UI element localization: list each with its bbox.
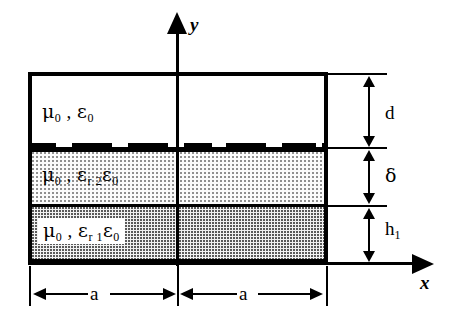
x-axis-label: x [420, 272, 430, 294]
label-separator-middle: , [61, 164, 77, 185]
dimension-arrow-a-left-end [163, 288, 176, 300]
dimension-label-h1-subscript: 1 [395, 228, 401, 242]
epsilon-zero-symbol-bottom: ε [103, 219, 113, 241]
dimension-label-h1-text: h [385, 218, 395, 239]
epsilon-zero-subscript-middle: 0 [112, 174, 119, 188]
mu-subscript-top: 0 [55, 111, 62, 125]
dimension-label-h1: h1 [385, 218, 401, 240]
x-axis-arrowhead-icon [412, 254, 434, 274]
grating-tooth [28, 143, 56, 148]
mu-symbol-bottom: μ [43, 219, 56, 241]
dimension-label-delta-text: δ [385, 164, 396, 186]
dimension-label-a-right: a [239, 283, 247, 305]
extension-line-center [177, 266, 179, 306]
dimension-label-delta: δ [385, 164, 396, 187]
grating-tooth [184, 143, 212, 148]
y-axis-arrowhead-icon [167, 12, 187, 34]
dimension-label-a-left-text: a [90, 283, 98, 304]
epsilon-zero-subscript-bottom: 0 [113, 230, 120, 244]
extension-line-top [325, 73, 387, 75]
extension-line-mid-bottom [325, 205, 387, 207]
extension-line-left-edge [29, 266, 31, 306]
grating-tooth [226, 143, 266, 148]
dimension-line-a-left-2 [110, 293, 165, 295]
grating-tooth [282, 143, 316, 148]
grating-tooth [72, 143, 112, 148]
dimension-arrow-h1-down [363, 251, 375, 262]
grating-tooth [128, 143, 168, 148]
label-separator-top: , [61, 101, 77, 122]
y-axis-line [176, 30, 179, 266]
material-label-middle: μ0 , εr 2ε0 [42, 163, 119, 186]
mu-subscript-middle: 0 [55, 174, 62, 188]
dimension-line-a-right-2 [258, 293, 311, 295]
dimension-arrow-h1-up [363, 208, 375, 219]
layered-waveguide-diagram: y x μ0 , ε0 μ0 , εr 2ε0 μ0 , εr 1ε0 d δ … [0, 0, 452, 323]
material-label-top: μ0 , ε0 [42, 100, 94, 123]
epsilon-subscript-top: 0 [87, 111, 94, 125]
dimension-arrow-d-up [363, 76, 375, 87]
dimension-arrow-delta-down [363, 193, 375, 204]
mu-symbol-top: μ [42, 100, 55, 122]
dimension-label-d-text: d [385, 102, 395, 123]
x-axis-line [28, 262, 418, 265]
epsilon-zero-symbol-middle: ε [102, 163, 112, 185]
extension-line-right-edge [326, 266, 328, 306]
dimension-line-a-left-1 [45, 293, 88, 295]
extension-line-grating [325, 147, 387, 149]
mu-symbol-middle: μ [42, 163, 55, 185]
dimension-arrow-d-down [363, 136, 375, 147]
label-separator-bottom: , [62, 220, 78, 241]
dimension-label-d: d [385, 102, 395, 124]
dimension-arrow-delta-up [363, 150, 375, 161]
dimension-line-a-right-1 [192, 293, 237, 295]
y-axis-label: y [190, 14, 198, 36]
mu-subscript-bottom: 0 [56, 230, 63, 244]
dimension-line-d [368, 78, 370, 143]
dimension-label-a-left: a [90, 283, 98, 305]
epsilon-symbol-top: ε [77, 100, 87, 122]
dimension-label-a-right-text: a [239, 283, 247, 304]
dimension-arrow-a-right-end [310, 288, 323, 300]
epsilon-relative-subscript-bottom: r 1 [88, 230, 103, 244]
epsilon-symbol-bottom: ε [78, 219, 88, 241]
material-label-bottom: μ0 , εr 1ε0 [38, 218, 125, 244]
epsilon-relative-subscript-middle: r 2 [87, 174, 102, 188]
epsilon-symbol-middle: ε [77, 163, 87, 185]
